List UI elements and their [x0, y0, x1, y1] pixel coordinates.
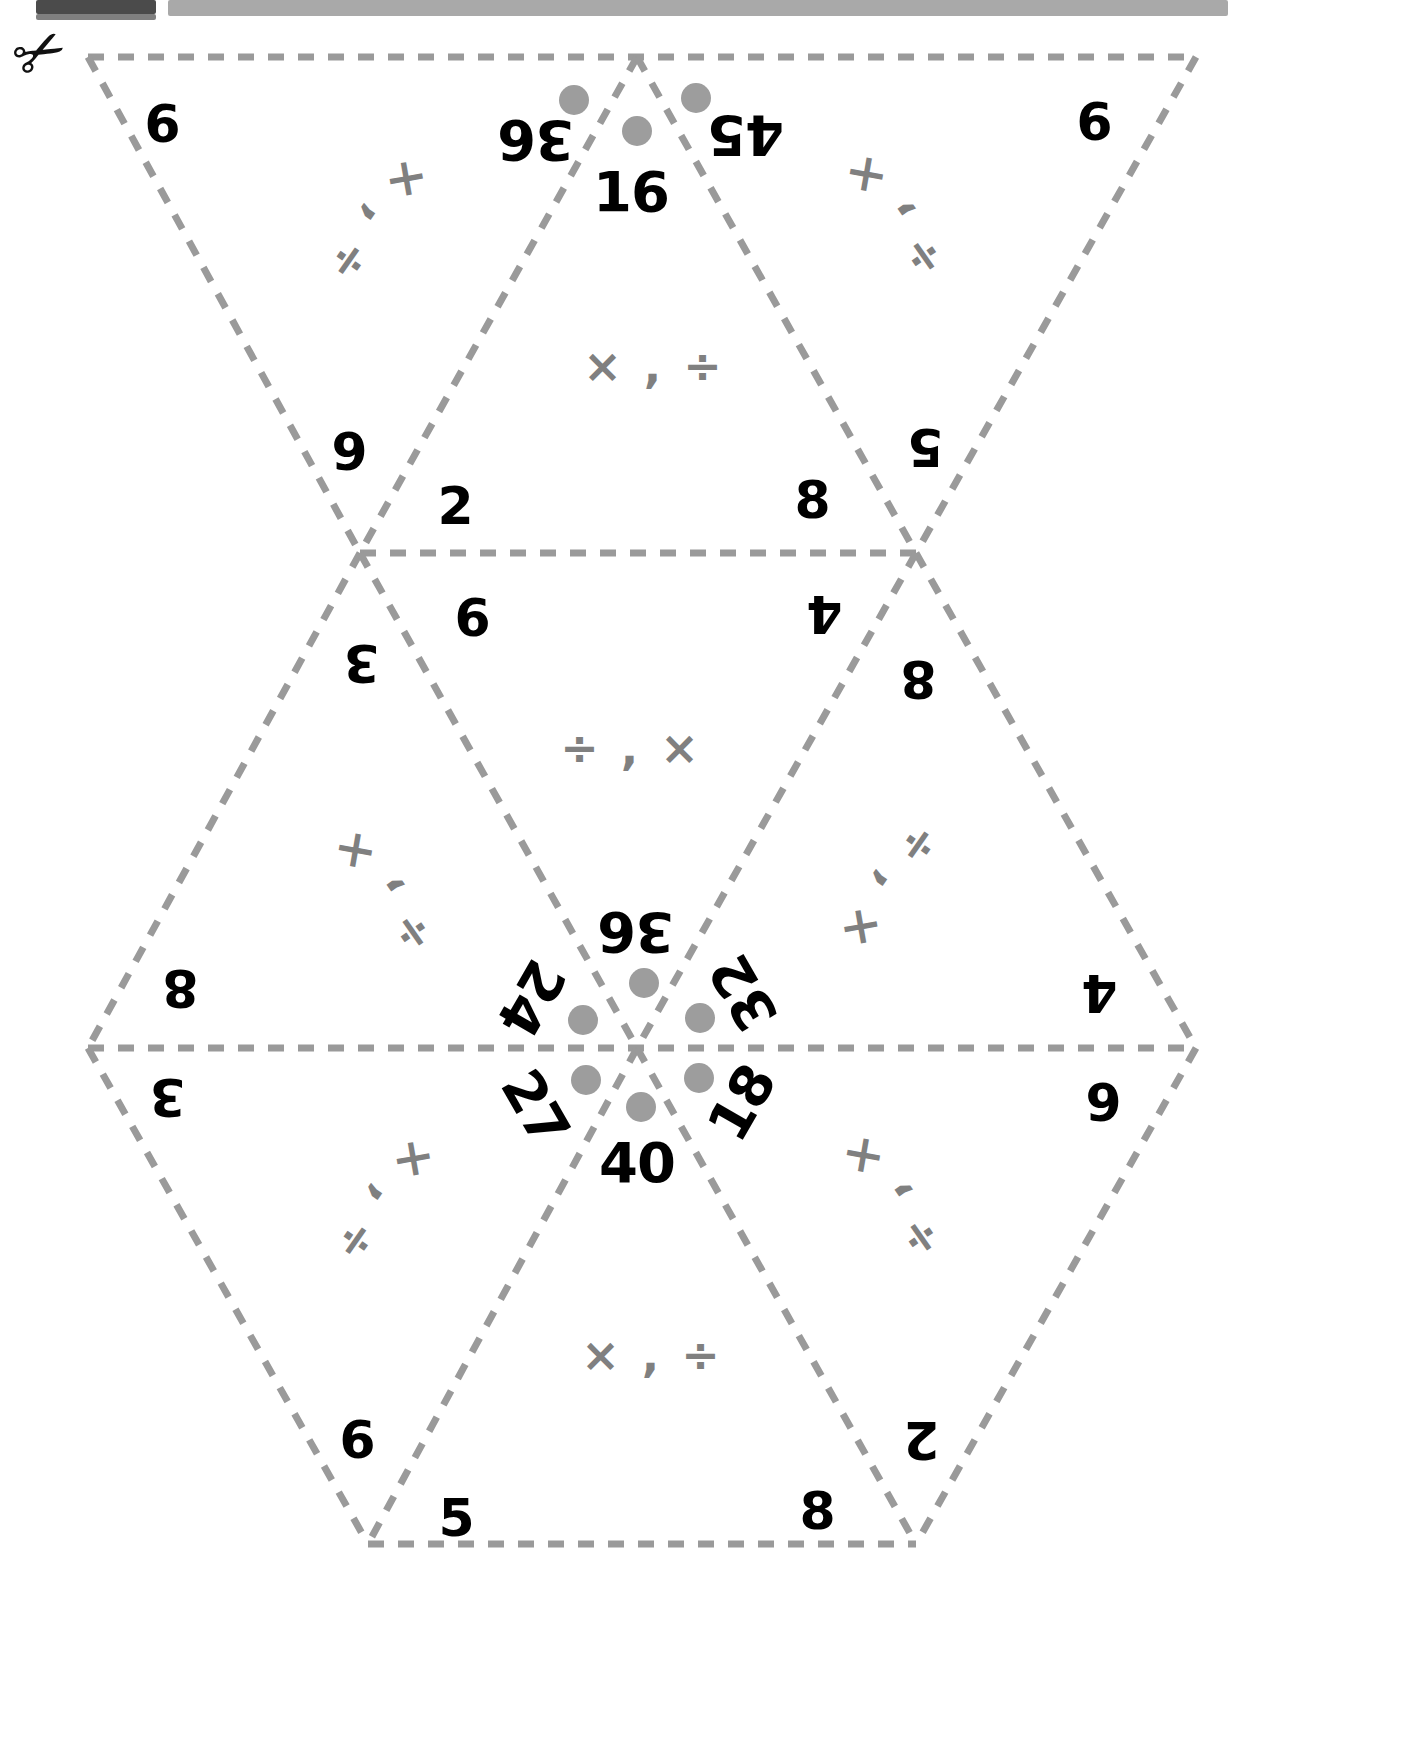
cut-line-inner-left-lower: [368, 1048, 637, 1544]
dot-marker: [684, 1063, 714, 1093]
dot-marker: [629, 968, 659, 998]
cut-line-left-outer-lower: [88, 1048, 368, 1544]
operator-label: × , ÷: [581, 1332, 723, 1378]
center-number: 40: [599, 1135, 675, 1191]
edge-number: 9: [340, 1412, 375, 1464]
center-number: 16: [593, 164, 669, 220]
edge-number: 5: [908, 421, 943, 473]
edge-number: 6: [1086, 1075, 1121, 1127]
edge-number: 9: [145, 96, 180, 148]
cut-line-inner-right-mid: [637, 553, 916, 1048]
dot-marker: [685, 1003, 715, 1033]
edge-number: 4: [807, 588, 842, 640]
dot-marker: [681, 83, 711, 113]
edge-number: 6: [454, 592, 489, 644]
cut-line-right-outer-mid: [916, 553, 1196, 1048]
edge-number: 9: [1077, 94, 1112, 146]
edge-number: 8: [799, 1485, 834, 1537]
center-number: 36: [498, 112, 574, 168]
worksheet-page: ✂ 163645402436322718 996285643884369582 …: [0, 0, 1403, 1760]
operator-label: ÷ , ×: [560, 725, 702, 771]
dot-marker: [622, 116, 652, 146]
edge-number: 4: [1082, 967, 1117, 1019]
center-number: 36: [598, 904, 674, 960]
edge-number: 3: [150, 1071, 185, 1123]
cut-line-upper-right-outer: [916, 57, 1196, 553]
cut-line-left-outer-mid: [88, 553, 360, 1048]
edge-number: 8: [163, 962, 198, 1014]
edge-number: 8: [794, 474, 829, 526]
center-number: 45: [708, 107, 784, 163]
dot-marker: [568, 1005, 598, 1035]
edge-number: 8: [901, 653, 936, 705]
operator-label: × , ÷: [583, 343, 725, 389]
cut-line-inner-left-mid: [360, 553, 637, 1048]
dot-marker: [626, 1092, 656, 1122]
edge-number: 2: [904, 1414, 939, 1466]
edge-number: 5: [438, 1492, 473, 1544]
cut-lines-diagram: [0, 0, 1403, 1760]
edge-number: 6: [332, 424, 367, 476]
cut-line-upper-left-outer: [88, 57, 360, 553]
cut-line-right-outer-lower: [916, 1048, 1196, 1544]
dot-marker: [571, 1065, 601, 1095]
edge-number: 3: [344, 637, 379, 689]
cut-line-inner-right-lower: [637, 1048, 916, 1544]
edge-number: 2: [437, 480, 472, 532]
